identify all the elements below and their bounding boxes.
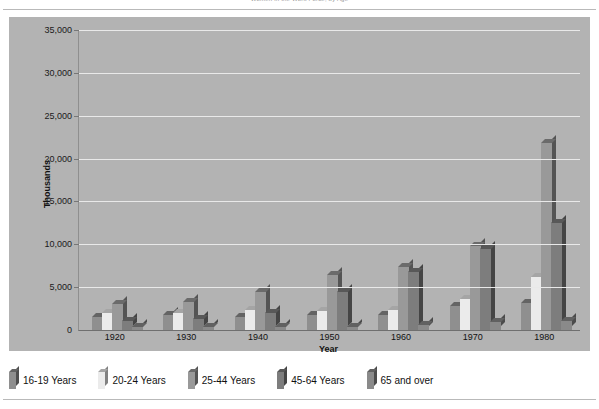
bar-group-bars: [365, 30, 437, 330]
legend-label: 65 and over: [381, 375, 434, 386]
bar: [408, 272, 419, 330]
bar-group: 1930: [151, 30, 223, 330]
bar-top-face: [203, 323, 218, 327]
y-axis-label: 30,000: [44, 68, 72, 78]
y-axis-tick: [74, 116, 79, 117]
bar-column: [408, 272, 419, 330]
divider-bottom: [3, 399, 596, 400]
gridline: [79, 287, 580, 288]
bar-side-face: [562, 215, 566, 326]
bar-side-face: [419, 264, 423, 326]
bar: [561, 321, 572, 330]
y-axis-tick: [74, 30, 79, 31]
x-axis-label: 1960: [365, 332, 437, 342]
plot-region: 1920193019401950196019701980 35,00030,00…: [78, 30, 580, 331]
y-axis-label: 20,000: [44, 154, 72, 164]
bar: [490, 322, 501, 330]
bar: [203, 327, 214, 330]
x-axis-label: 1920: [79, 332, 151, 342]
chart-plot-area: Thousands 1920193019401950196019701980 3…: [9, 17, 590, 351]
legend-swatch: [98, 372, 105, 389]
y-axis-tick: [74, 73, 79, 74]
bar-column: [490, 322, 501, 330]
legend-swatch: [367, 372, 374, 389]
y-axis-tick: [74, 201, 79, 202]
bar: [418, 325, 429, 330]
bar-column: [337, 292, 348, 330]
legend-label: 25-44 Years: [202, 375, 255, 386]
gridline: [79, 201, 580, 202]
bar-group: 1920: [79, 30, 151, 330]
bar-group: 1960: [365, 30, 437, 330]
legend-label: 45-64 Years: [291, 375, 344, 386]
legend-item[interactable]: 25-44 Years: [188, 372, 255, 389]
legend-label: 16-19 Years: [23, 375, 76, 386]
bar-column: [480, 249, 491, 330]
legend-swatch: [9, 372, 16, 389]
y-axis-label: 5,000: [49, 282, 72, 292]
y-axis-tick: [74, 244, 79, 245]
bar-column: [275, 327, 286, 330]
bar-column: [347, 327, 358, 330]
y-axis-tick: [74, 287, 79, 288]
y-axis-label: 25,000: [44, 111, 72, 121]
bar-column: [551, 223, 562, 330]
legend-item[interactable]: 65 and over: [367, 372, 434, 389]
bar: [480, 249, 491, 330]
legend-swatch: [188, 372, 195, 389]
y-axis-label: 10,000: [44, 239, 72, 249]
bar-top-face: [132, 323, 147, 327]
bar-top-face: [275, 323, 290, 327]
x-axis-label: 1970: [437, 332, 509, 342]
legend-item[interactable]: 45-64 Years: [277, 372, 344, 389]
x-axis-label: 1940: [222, 332, 294, 342]
x-axis-label: 1980: [508, 332, 580, 342]
bar-group: 1980: [508, 30, 580, 330]
x-axis-title: Year: [78, 344, 579, 354]
bar-column: [132, 327, 143, 330]
y-axis-label: 35,000: [44, 25, 72, 35]
gridline: [79, 30, 580, 31]
gridline: [79, 159, 580, 160]
legend-swatch: [277, 372, 284, 389]
y-axis-label: 0: [67, 325, 72, 335]
bar: [337, 292, 348, 330]
chart-legend: 16-19 Years20-24 Years25-44 Years45-64 Y…: [9, 368, 590, 392]
top-caption: Women in the Work Force, by Age: [0, 0, 599, 3]
bar-group: 1940: [222, 30, 294, 330]
legend-label: 20-24 Years: [112, 375, 165, 386]
bar-group: 1970: [437, 30, 509, 330]
bar-group-bars: [222, 30, 294, 330]
y-axis-label: 15,000: [44, 196, 72, 206]
x-axis-label: 1930: [151, 332, 223, 342]
bar-group-bars: [508, 30, 580, 330]
bar: [551, 223, 562, 330]
bar-column: [561, 321, 572, 330]
bar: [347, 327, 358, 330]
bar-group-bars: [294, 30, 366, 330]
gridline: [79, 116, 580, 117]
bar-column: [418, 325, 429, 330]
bar: [132, 327, 143, 330]
bar-groups: 1920193019401950196019701980: [79, 30, 580, 330]
bar-group-bars: [437, 30, 509, 330]
bar-group: 1950: [294, 30, 366, 330]
gridline: [79, 244, 580, 245]
legend-item[interactable]: 20-24 Years: [98, 372, 165, 389]
bar: [275, 327, 286, 330]
legend-item[interactable]: 16-19 Years: [9, 372, 76, 389]
bar-group-bars: [151, 30, 223, 330]
divider-top: [3, 9, 596, 10]
bar-side-face: [491, 241, 495, 326]
bar-group-bars: [79, 30, 151, 330]
bar-column: [203, 327, 214, 330]
gridline: [79, 73, 580, 74]
x-axis-label: 1950: [294, 332, 366, 342]
y-axis-tick: [74, 159, 79, 160]
chart-page: Women in the Work Force, by Age Thousand…: [0, 0, 599, 409]
